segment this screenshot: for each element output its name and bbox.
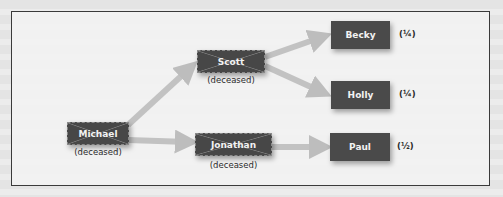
scott-status: (deceased): [193, 75, 269, 85]
arrow-scott-becky: [265, 37, 322, 57]
node-jonathan: Jonathan: [195, 133, 272, 156]
michael-status: (deceased): [60, 147, 136, 157]
holly-share: (¼): [399, 89, 416, 99]
jonathan-status: (deceased): [195, 160, 272, 170]
arrow-michael-jonathan: [128, 140, 188, 142]
node-paul-label: Paul: [349, 142, 371, 152]
paul-share: (½): [397, 141, 414, 151]
node-holly-label: Holly: [348, 90, 374, 100]
node-jonathan-label: Jonathan: [211, 140, 256, 150]
becky-share: (¼): [399, 29, 416, 39]
node-michael: Michael: [67, 122, 129, 145]
arrow-scott-holly: [265, 66, 322, 92]
arrow-michael-scott: [128, 68, 190, 125]
node-paul: Paul: [330, 133, 390, 161]
node-becky: Becky: [331, 21, 390, 49]
node-scott-label: Scott: [218, 57, 245, 67]
node-michael-label: Michael: [78, 129, 117, 139]
node-holly: Holly: [331, 81, 390, 109]
node-becky-label: Becky: [345, 30, 375, 40]
node-scott: Scott: [197, 50, 265, 73]
